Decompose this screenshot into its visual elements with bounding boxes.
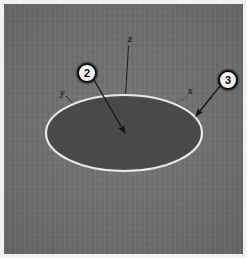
callout-marker-2[interactable]: 2 <box>77 63 97 83</box>
z-axis-line <box>126 46 129 96</box>
z-axis-label: z <box>128 34 132 44</box>
figure-root: z y x 2 3 <box>0 0 247 258</box>
x-axis-label: x <box>188 86 192 96</box>
callout-3-leader-line <box>196 86 220 116</box>
callout-marker-3[interactable]: 3 <box>218 70 238 90</box>
figure-canvas: z y x 2 3 <box>4 4 243 254</box>
y-axis-label: y <box>60 88 64 98</box>
annotation-svg-layer <box>4 4 243 254</box>
ellipse-inner-shading <box>48 97 200 169</box>
